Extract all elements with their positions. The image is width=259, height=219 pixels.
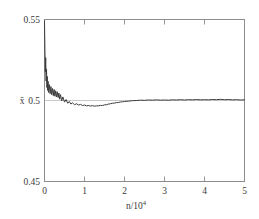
x-tick-label-2: 2 xyxy=(122,186,127,196)
x-tick-label-1: 1 xyxy=(82,186,87,196)
x-tick-label-0: 0 xyxy=(42,186,47,196)
running-mean-line xyxy=(45,21,245,106)
y-tick-label-mid: 0.5 xyxy=(28,96,40,106)
x-tick-label-4: 4 xyxy=(202,186,207,196)
x-axis-title: n/104 xyxy=(126,199,147,211)
x-axis-title-base: n/10 xyxy=(126,201,143,211)
y-tick-label-bottom: 0.45 xyxy=(23,177,40,187)
x-tickmarks-top xyxy=(85,20,205,25)
chart-svg: 0.55 0.5 0.45 x̄ 0 1 2 3 4 5 n/104 xyxy=(0,0,259,219)
x-tick-label-5: 5 xyxy=(242,186,247,196)
x-tickmarks-bottom xyxy=(45,177,245,182)
figure-container: 0.55 0.5 0.45 x̄ 0 1 2 3 4 5 n/104 xyxy=(0,0,259,219)
y-tick-label-top: 0.55 xyxy=(23,15,40,25)
x-axis-title-exponent: 4 xyxy=(143,199,147,206)
x-tick-label-3: 3 xyxy=(162,186,167,196)
y-axis-title: x̄ xyxy=(20,96,25,106)
